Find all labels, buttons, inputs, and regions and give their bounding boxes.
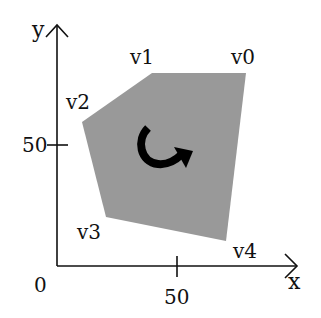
vertex-label-v2: v2 [65, 90, 90, 114]
x-axis-label: x [288, 269, 301, 294]
vertex-label-v0: v0 [230, 45, 255, 69]
x-axis [57, 254, 297, 278]
vertex-label-v1: v1 [129, 45, 154, 69]
polygon-diagram: y x 0 50 50 v0 v1 v2 v3 v4 [0, 0, 321, 318]
origin-label: 0 [34, 273, 47, 297]
polygon-shape [82, 73, 246, 241]
y-axis [46, 25, 68, 266]
vertex-label-v4: v4 [232, 239, 257, 263]
vertex-label-v3: v3 [76, 220, 101, 244]
y-tick-label: 50 [22, 133, 47, 157]
x-tick-label: 50 [164, 285, 189, 309]
y-axis-label: y [31, 17, 45, 42]
